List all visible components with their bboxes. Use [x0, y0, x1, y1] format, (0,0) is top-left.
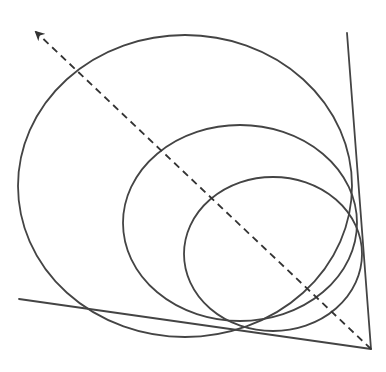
circle-medium	[123, 125, 357, 321]
circle-large	[18, 35, 352, 337]
angle	[19, 33, 371, 349]
inscribed-circles	[18, 35, 362, 337]
angle-ray-bottom	[19, 299, 371, 349]
tangent-circles-diagram	[0, 0, 386, 372]
circle-small	[184, 177, 362, 331]
